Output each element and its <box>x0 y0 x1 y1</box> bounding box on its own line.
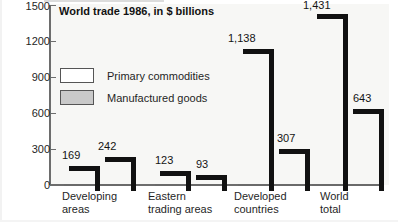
bar-manufactured-developing-areas[interactable] <box>64 166 95 186</box>
bar-primary-world-total[interactable] <box>348 109 379 186</box>
bar-manufactured-world-total[interactable] <box>312 14 343 186</box>
bar-face <box>274 184 305 186</box>
bar-primary-developing-areas[interactable] <box>100 157 131 186</box>
bar-face <box>348 184 379 186</box>
x-axis-label-eastern-trading-areas-line1: Eastern <box>148 190 186 203</box>
bar-primary-eastern-trading-areas[interactable] <box>191 175 222 186</box>
y-axis-label-0: 0 <box>4 180 50 191</box>
bar-value-primary-world-total: 643 <box>353 93 371 104</box>
bar-value-manufactured-developing-areas: 169 <box>62 150 80 161</box>
bar-value-manufactured-eastern-trading-areas: 123 <box>155 155 173 166</box>
bar-face <box>191 184 222 186</box>
x-axis-label-developing-areas-line2: areas <box>62 203 90 216</box>
scan-edge-bottom <box>0 220 398 222</box>
bar-manufactured-eastern-trading-areas[interactable] <box>155 171 186 186</box>
bar-value-manufactured-developed-countries: 1,138 <box>228 33 256 44</box>
scan-artifact-top <box>44 0 164 2</box>
bar-side-shadow <box>305 149 310 191</box>
x-axis-label-developed-countries-line2: countries <box>234 203 279 216</box>
bar-value-primary-developed-countries: 307 <box>277 133 295 144</box>
y-axis-label-1500: 1500 <box>4 1 50 12</box>
bar-value-primary-developing-areas: 242 <box>98 141 116 152</box>
y-axis-label-1200: 1200 <box>4 36 50 47</box>
bar-face <box>312 184 343 186</box>
bar-face <box>155 184 186 186</box>
y-axis-label-900: 900 <box>4 72 50 83</box>
bar-side-shadow <box>379 109 384 191</box>
bar-face <box>64 184 95 186</box>
x-axis-label-world-total-line1: World <box>320 190 349 203</box>
bar-value-primary-eastern-trading-areas: 93 <box>196 159 208 170</box>
bar-side-shadow <box>222 175 227 191</box>
bar-face <box>238 184 269 186</box>
x-axis-label-world-total-line2: total <box>320 203 341 216</box>
bars-layer <box>50 5 389 186</box>
y-axis-label-600: 600 <box>4 108 50 119</box>
x-axis-label-eastern-trading-areas-line2: trading areas <box>148 203 212 216</box>
bar-value-manufactured-world-total: 1,431 <box>303 0 331 11</box>
bar-side-shadow <box>131 157 136 191</box>
scan-edge-left <box>0 0 2 222</box>
y-axis-label-300: 300 <box>4 144 50 155</box>
bar-manufactured-developed-countries[interactable] <box>238 49 269 186</box>
x-axis-label-developed-countries-line1: Developed <box>234 190 287 203</box>
bar-face <box>100 184 131 186</box>
x-axis-label-developing-areas-line1: Developing <box>62 190 117 203</box>
bar-primary-developed-countries[interactable] <box>274 149 305 186</box>
